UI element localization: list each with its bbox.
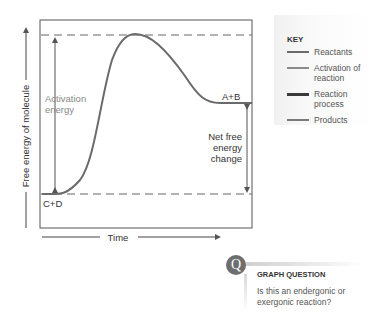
reactants-swatch-icon: [287, 51, 309, 53]
activation-swatch-icon: [287, 67, 309, 69]
key-item-reactants: Reactants: [287, 47, 377, 57]
products-swatch-icon: [287, 119, 309, 121]
question-vline: [244, 274, 247, 312]
activation-energy-label-2: energy: [45, 104, 74, 115]
key-item-activation: Activation of reaction: [287, 63, 369, 83]
reactants-label: C+D: [43, 198, 62, 209]
key-item-products: Products: [287, 115, 377, 125]
products-label: A+B: [222, 91, 240, 102]
y-axis-label: Free energy of molecule: [20, 85, 31, 187]
x-axis-label: Time: [108, 232, 129, 243]
activation-energy-label: Activation: [45, 93, 86, 104]
net-change-label-2: energy: [213, 142, 242, 153]
question-title: GRAPH QUESTION: [257, 270, 325, 279]
net-change-label-3: change: [211, 153, 242, 164]
plot-frame: [40, 20, 252, 228]
net-change-label: Net free: [208, 131, 242, 142]
question-text: Is this an endergonic or exergonic react…: [257, 286, 372, 308]
reaction-process-swatch-icon: [287, 93, 309, 96]
question-badge-icon: Q: [226, 255, 246, 275]
question-bar: [245, 262, 365, 266]
key-title: KEY: [287, 35, 303, 44]
key-item-reaction-process: Reaction process: [287, 89, 359, 109]
